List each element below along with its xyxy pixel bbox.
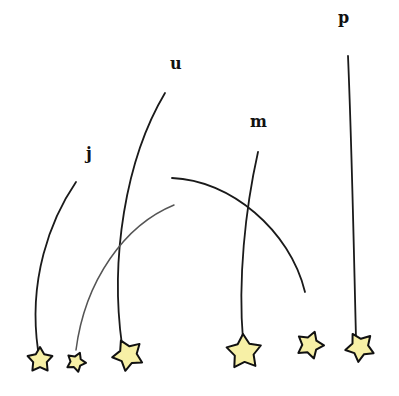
illustration-svg	[0, 0, 399, 396]
string-arc-to-right	[172, 178, 305, 292]
star-p-icon	[345, 334, 373, 362]
string-p	[348, 56, 356, 338]
label-m: m	[250, 114, 267, 130]
label-u: u	[170, 56, 182, 72]
star-j-icon	[28, 347, 53, 371]
star-m-icon	[227, 334, 261, 367]
illustration-canvas: jump	[0, 0, 399, 396]
label-j: j	[86, 146, 92, 162]
string-m	[241, 152, 258, 340]
star-free-icon	[298, 332, 324, 359]
string-u	[118, 93, 165, 345]
star-u-icon	[112, 341, 142, 371]
label-p: p	[338, 10, 349, 26]
string-arc-to-left	[76, 205, 174, 350]
star-small-icon	[67, 353, 86, 372]
string-j	[36, 182, 76, 350]
